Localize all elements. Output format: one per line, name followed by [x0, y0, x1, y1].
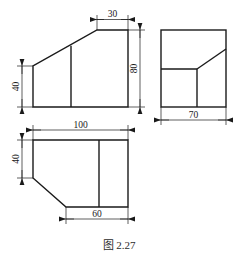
dimension-80: 80 — [128, 26, 145, 111]
dimension-70-label: 70 — [189, 110, 199, 120]
figure-caption: 图 2.27 — [0, 236, 238, 252]
dimension-80-label: 80 — [129, 64, 139, 74]
dimension-100-label: 100 — [73, 120, 88, 130]
dimension-60: 60 — [62, 207, 132, 224]
side-view-inclined-edge — [197, 49, 226, 69]
dimension-30: 30 — [91, 9, 134, 30]
dimension-40-top: 40 — [11, 136, 33, 182]
engineering-drawing-svg: 30 80 40 — [0, 0, 238, 262]
front-view — [33, 30, 128, 107]
dimension-100: 100 — [29, 120, 132, 141]
side-view — [161, 30, 226, 107]
dimension-30-label: 30 — [108, 9, 118, 19]
dimension-40-front-label: 40 — [11, 82, 21, 92]
dimension-40-front: 40 — [11, 62, 33, 111]
dimension-40-top-label: 40 — [11, 154, 21, 164]
top-view-outline — [33, 140, 128, 207]
front-view-outline — [33, 30, 128, 107]
dimension-70: 70 — [157, 107, 230, 125]
dimension-60-label: 60 — [92, 209, 102, 219]
figure-root: 30 80 40 — [0, 0, 238, 262]
top-view — [33, 140, 128, 207]
